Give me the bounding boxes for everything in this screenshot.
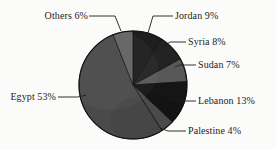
pie-label-syria: Syria 8% <box>188 36 226 47</box>
pie-chart-figure: Others 6% Jordan 9% Syria 8% Sudan 7% Le… <box>0 0 276 149</box>
pie-label-sudan: Sudan 7% <box>198 59 240 70</box>
pie-label-others: Others 6% <box>12 10 88 21</box>
pie-label-jordan: Jordan 9% <box>175 10 218 21</box>
pie-label-lebanon: Lebanon 13% <box>198 95 255 106</box>
leader-line-others <box>89 16 121 31</box>
pie-label-palestine: Palestine 4% <box>188 125 241 136</box>
pie-label-egypt: Egypt 53% <box>2 91 56 102</box>
leader-line-jordan <box>148 16 173 33</box>
